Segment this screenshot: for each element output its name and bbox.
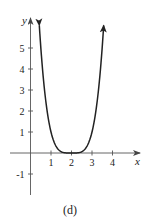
y-tick-label: -1 [16,169,24,180]
y-tick-label: 3 [20,85,25,96]
x-tick-label: 4 [110,157,115,168]
y-axis-label: y [21,14,27,26]
x-tick-label: 1 [49,157,54,168]
x-tick-label: 3 [90,157,95,168]
curve-line [39,25,103,153]
y-tick-label: 2 [20,106,25,117]
y-tick-label: 5 [20,43,25,54]
y-tick-label: 1 [20,127,25,138]
y-tick-label: 4 [20,64,25,75]
x-axis-label: x [134,155,140,167]
figure-caption: (d) [63,203,77,217]
chart: x y 1234 -112345 (d) [0,0,150,218]
axes: x y [10,14,140,195]
x-tick-label: 2 [69,157,74,168]
